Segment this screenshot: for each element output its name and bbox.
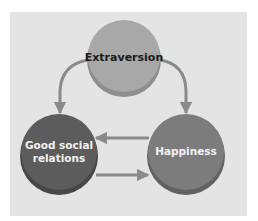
node-label-good-social-relations-line2: relations bbox=[33, 152, 86, 164]
node-good-social-relations: Good social relations bbox=[20, 114, 98, 195]
node-label-good-social-relations-line1: Good social bbox=[25, 139, 93, 151]
node-label-happiness: Happiness bbox=[155, 145, 217, 157]
edge-extraversion-to-happiness bbox=[160, 60, 186, 113]
node-label-extraversion: Extraversion bbox=[85, 51, 163, 64]
node-extraversion: Extraversion bbox=[85, 20, 163, 97]
diagram-canvas: Extraversion Good social relations Happi… bbox=[0, 0, 258, 221]
node-happiness: Happiness bbox=[147, 114, 225, 195]
edge-extraversion-to-good-social-relations bbox=[60, 60, 88, 113]
